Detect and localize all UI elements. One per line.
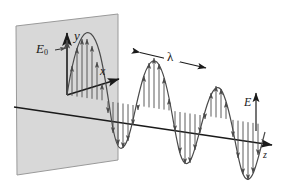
y-axis-label: y [74, 29, 80, 42]
figure-canvas: E0 y x λ E z [0, 0, 286, 194]
z-axis-label: z [263, 150, 267, 160]
x-axis-label: x [100, 65, 105, 77]
amplitude-label: E0 [36, 42, 48, 57]
electric-field-label: E [244, 96, 251, 108]
field-vectors-lobe-4 [175, 111, 205, 164]
wavelength-label: λ [167, 50, 173, 63]
